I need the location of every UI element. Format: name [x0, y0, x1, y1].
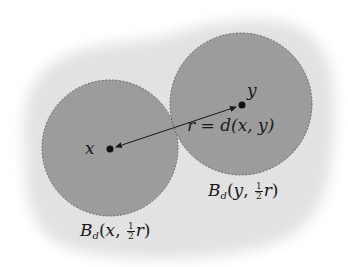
ball-y-sep: ,: [243, 180, 254, 200]
ball-y-B: B: [208, 180, 221, 200]
point-y-label: y: [247, 80, 257, 100]
distance-r: r: [187, 115, 195, 135]
ball-x-B: B: [80, 220, 93, 240]
distance-eq: =: [195, 115, 220, 135]
ball-y-center: y: [234, 180, 244, 200]
ball-x-center: x: [106, 220, 116, 240]
diagram-canvas: [0, 0, 348, 267]
ball-x-sep: ,: [115, 220, 126, 240]
ball-y-open: (: [227, 180, 234, 200]
ball-x-label: Bd(x, 12r): [80, 220, 150, 241]
ball-x-close: ): [144, 220, 151, 240]
distance-args: (x, y): [231, 115, 274, 135]
metric-balls-diagram: x y r = d(x, y) Bd(y, 12r) Bd(x, 12r): [0, 0, 348, 267]
distance-d: d: [220, 115, 231, 135]
point-x-dot: [107, 146, 114, 153]
ball-x-open: (: [99, 220, 106, 240]
ball-y-label: Bd(y, 12r): [208, 180, 278, 201]
distance-label: r = d(x, y): [187, 115, 274, 135]
point-y-dot: [239, 102, 246, 109]
point-x-label: x: [85, 138, 95, 158]
ball-x-frac: 12: [127, 222, 135, 241]
ball-y-r: r: [264, 180, 272, 200]
ball-y-frac: 12: [255, 182, 263, 201]
ball-y-close: ): [272, 180, 279, 200]
ball-x-r: r: [136, 220, 144, 240]
